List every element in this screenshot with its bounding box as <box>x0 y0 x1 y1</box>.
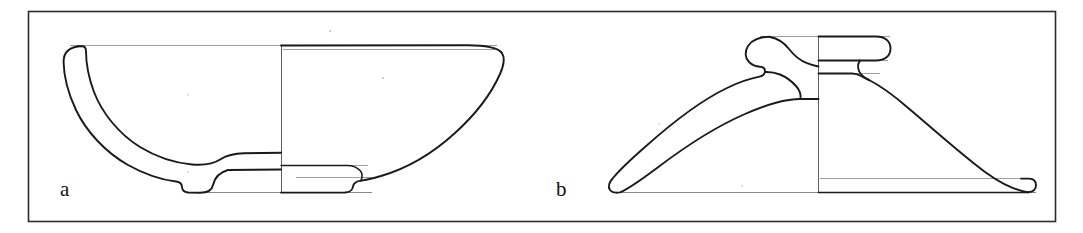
section-inner-face-b <box>770 37 819 67</box>
exterior-foot-a <box>281 181 361 193</box>
figure-b-lid: b <box>556 36 1036 201</box>
exterior-foot-shoulder-a <box>281 165 362 180</box>
exterior-body-a <box>361 53 504 181</box>
section-inner-slope-b <box>617 99 801 193</box>
figure-label-a: a <box>60 177 70 201</box>
print-speck <box>658 123 660 125</box>
section-outline-b <box>609 37 770 193</box>
section-inner-wall-b <box>765 72 819 99</box>
print-speck <box>187 94 189 96</box>
exterior-slope-b <box>869 80 1028 192</box>
figure-label-b: b <box>556 177 567 201</box>
print-speck <box>669 128 670 129</box>
figure-a-bowl: a <box>60 30 504 201</box>
illustration-plate: a <box>0 0 1083 233</box>
plate-canvas: a <box>0 0 1083 233</box>
exterior-knob-b <box>819 37 891 61</box>
exterior-rim-a <box>281 45 502 52</box>
section-outline-a <box>64 47 281 193</box>
section-inner-face-a <box>78 46 281 165</box>
print-speck <box>329 30 331 32</box>
exterior-rim-b <box>1021 179 1036 193</box>
print-speck <box>382 77 384 79</box>
print-speck <box>741 185 743 187</box>
print-speck <box>187 171 189 173</box>
figure-a-construction-lines <box>70 46 497 193</box>
